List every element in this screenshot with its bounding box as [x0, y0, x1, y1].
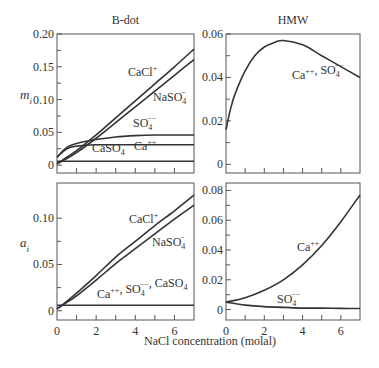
- x-tick-label: 6: [338, 324, 344, 338]
- series-annotation: Ca++, SO4−−: [292, 61, 344, 82]
- y-tick-label: 0.05: [33, 257, 54, 271]
- x-tick-label: 4: [132, 324, 138, 338]
- y-tick-label: 0.20: [33, 27, 54, 41]
- x-tick-label: 0: [54, 324, 60, 338]
- y-tick-label: 0.04: [202, 243, 223, 257]
- x-tick-label: 4: [300, 324, 306, 338]
- plot-frame: [226, 34, 360, 173]
- series-annotation: CaCl+: [129, 211, 159, 226]
- series-line: [57, 145, 194, 158]
- panel-title: B-dot: [112, 13, 140, 27]
- panel-title: HMW: [278, 13, 309, 27]
- chart-panel-top-right: 00.020.040.06HMWCa++, SO4−−: [202, 13, 360, 173]
- series-annotation: Ca++: [134, 138, 157, 153]
- y-tick-label: 0: [217, 303, 223, 317]
- series-annotation: Ca++, SO4−−, CaSO4: [97, 276, 187, 301]
- series-annotation: NaSO4−: [153, 88, 186, 106]
- y-tick-label: 0.02: [202, 114, 223, 128]
- y-tick-label: 0.06: [202, 213, 223, 227]
- plot-frame: [57, 183, 194, 320]
- y-tick-label: 0.15: [33, 60, 54, 74]
- series-annotation: CaSO4: [92, 141, 125, 157]
- series-line: [57, 60, 194, 164]
- y-axis-label: mi: [20, 87, 32, 106]
- series-annotation: SO4−−: [133, 114, 157, 132]
- y-tick-label: 0: [48, 304, 54, 318]
- x-tick-label: 2: [93, 324, 99, 338]
- y-axis-label: ai: [20, 235, 30, 254]
- chart-panel-bottom-right: 00.020.040.060.080246Ca++SO4−−: [202, 183, 360, 338]
- figure-canvas: 00.050.100.150.20B-dotmiCaCl+NaSO4−SO4−−…: [0, 0, 379, 368]
- y-tick-label: 0.05: [33, 125, 54, 139]
- series-annotation: CaCl+: [128, 64, 158, 79]
- y-tick-label: 0.10: [33, 211, 54, 225]
- y-tick-label: 0: [48, 158, 54, 172]
- chart-panel-top-left: 00.050.100.150.20B-dotmiCaCl+NaSO4−SO4−−…: [20, 13, 194, 173]
- series-annotation: NaSO4−: [152, 233, 185, 251]
- y-tick-label: 0: [217, 157, 223, 171]
- series-annotation: SO4−−: [277, 290, 301, 308]
- y-tick-label: 0.04: [202, 70, 223, 84]
- series-line: [226, 40, 360, 129]
- chart-panel-bottom-left: 00.050.100246aiCaCl+NaSO4−Ca++, SO4−−, C…: [20, 183, 194, 338]
- y-tick-label: 0.02: [202, 273, 223, 287]
- x-axis-label: NaCl concentration (molal): [144, 334, 276, 348]
- series-line: [226, 195, 360, 302]
- y-tick-label: 0.10: [33, 93, 54, 107]
- y-tick-label: 0.06: [202, 27, 223, 41]
- y-tick-label: 0.08: [202, 183, 223, 197]
